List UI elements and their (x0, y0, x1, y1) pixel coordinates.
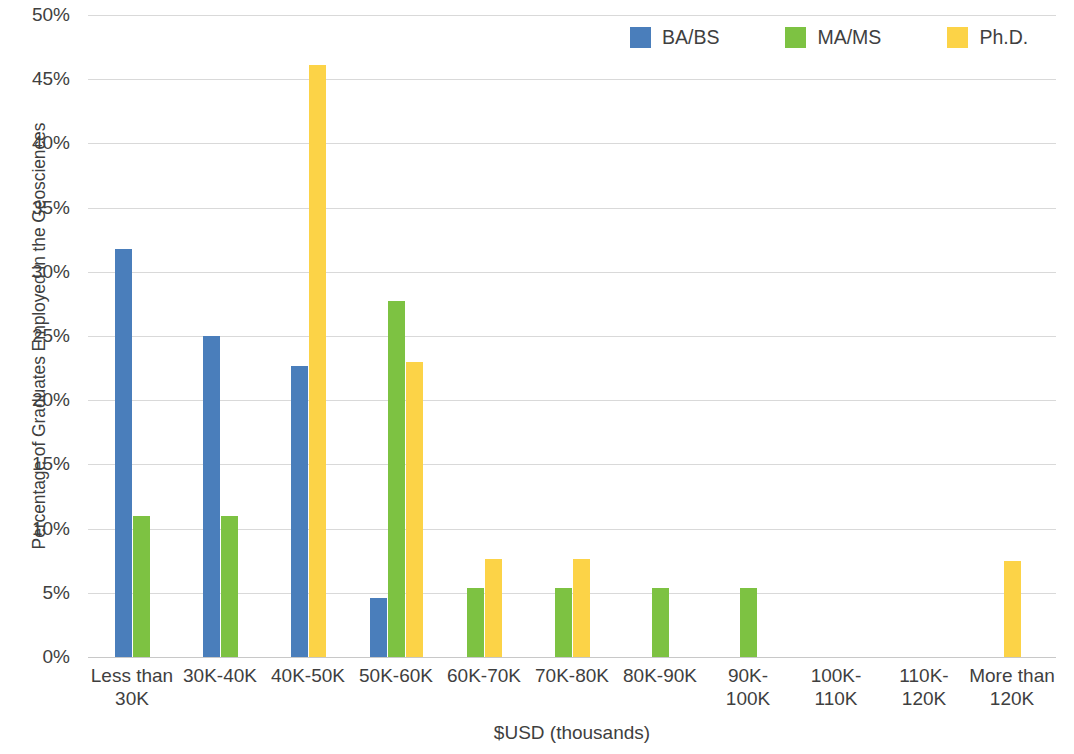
x-axis-tick-label: 110K- 120K (880, 664, 968, 710)
y-axis-tick-label: 45% (32, 68, 70, 90)
bar-group (440, 15, 528, 657)
bar (115, 249, 132, 657)
bar (291, 366, 308, 657)
x-axis-tick-label: 90K- 100K (704, 664, 792, 710)
bar-group (616, 15, 704, 657)
y-axis-tick-label: 40% (32, 132, 70, 154)
y-axis-tick-label: 35% (32, 197, 70, 219)
x-axis-tick-label: Less than 30K (88, 664, 176, 710)
legend-swatch-icon (947, 27, 968, 48)
x-axis-tick-label: 50K-60K (352, 664, 440, 687)
bar (388, 301, 405, 657)
y-axis-tick-label: 25% (32, 325, 70, 347)
bar (485, 559, 502, 657)
y-axis-tick-label: 20% (32, 389, 70, 411)
bar-group (352, 15, 440, 657)
bar-group (528, 15, 616, 657)
bar (370, 598, 387, 657)
y-axis-tick-label: 5% (43, 582, 70, 604)
bar (573, 559, 590, 657)
legend-swatch-icon (630, 27, 651, 48)
x-axis-tick-label: 100K- 110K (792, 664, 880, 710)
bar (1004, 561, 1021, 657)
x-axis-tick-label: 80K-90K (616, 664, 704, 687)
legend-label: Ph.D. (979, 26, 1028, 49)
bar (309, 65, 326, 657)
bar (406, 362, 423, 657)
y-axis-tick-label: 50% (32, 4, 70, 26)
bar-group (704, 15, 792, 657)
bar (221, 516, 238, 657)
y-axis-tick-label: 30% (32, 261, 70, 283)
x-axis-tick-label: 60K-70K (440, 664, 528, 687)
gridline (88, 657, 1056, 658)
bar (555, 588, 572, 657)
bar-group (264, 15, 352, 657)
legend-label: MA/MS (817, 26, 881, 49)
x-axis-tick-label: 40K-50K (264, 664, 352, 687)
legend-swatch-icon (785, 27, 806, 48)
bar (203, 336, 220, 657)
x-axis-title: $USD (thousands) (88, 722, 1056, 744)
bar (740, 588, 757, 657)
legend-item[interactable]: MA/MS (785, 26, 881, 49)
bar-group (880, 15, 968, 657)
bar (652, 588, 669, 657)
x-axis-tick-label: 30K-40K (176, 664, 264, 687)
y-axis-tick-label: 15% (32, 453, 70, 475)
chart-legend: BA/BSMA/MSPh.D. (630, 26, 1028, 49)
y-axis-tick-label: 10% (32, 518, 70, 540)
legend-label: BA/BS (662, 26, 719, 49)
legend-item[interactable]: BA/BS (630, 26, 719, 49)
bar-group (88, 15, 176, 657)
bar-group (176, 15, 264, 657)
bar-chart: Percentage of Graduates Employed in the … (0, 0, 1074, 754)
legend-item[interactable]: Ph.D. (947, 26, 1028, 49)
bar-group (792, 15, 880, 657)
bar-group (968, 15, 1056, 657)
x-axis-tick-label: 70K-80K (528, 664, 616, 687)
bar (133, 516, 150, 657)
x-axis-tick-label: More than 120K (968, 664, 1056, 710)
bars-layer (88, 15, 1056, 657)
y-axis-tick-label: 0% (43, 646, 70, 668)
y-axis-tick-labels: 0%5%10%15%20%25%30%35%40%45%50% (0, 15, 80, 657)
plot-area (88, 15, 1056, 657)
x-axis-tick-labels: Less than 30K30K-40K40K-50K50K-60K60K-70… (88, 664, 1056, 724)
bar (467, 588, 484, 657)
